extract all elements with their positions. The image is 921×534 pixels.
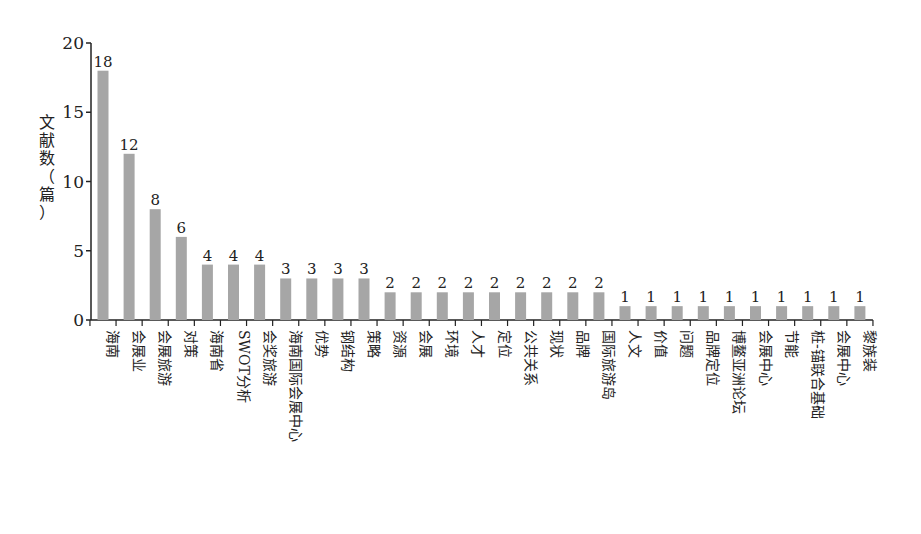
y-tick-label: 15 xyxy=(62,102,84,122)
bar-chart: 05101520 海南会展业会展旅游对策海南省SWOT分析会奖旅游海南国际会展中… xyxy=(0,0,921,534)
y-axis: 05101520 xyxy=(62,33,91,330)
x-category-label: 资源 xyxy=(392,330,408,358)
bar xyxy=(750,306,761,320)
x-category-label: 海南国际会展中心 xyxy=(288,330,304,442)
x-category-label: 海南 xyxy=(105,330,121,358)
bar xyxy=(776,306,787,320)
bar xyxy=(254,265,265,320)
bar-value-label: 1 xyxy=(777,288,787,306)
svg-text:数: 数 xyxy=(39,149,55,168)
bar xyxy=(541,292,552,320)
bar-value-label: 2 xyxy=(438,274,448,292)
x-category-label: 海南省 xyxy=(209,330,225,372)
bar-value-label: 1 xyxy=(725,288,735,306)
bar xyxy=(620,306,631,320)
y-tick-label: 20 xyxy=(62,33,84,53)
bar xyxy=(567,292,578,320)
x-category-label: 会展业 xyxy=(131,330,147,372)
x-category-label: 品牌 xyxy=(575,330,591,358)
bar-value-label: 2 xyxy=(464,274,474,292)
bar xyxy=(672,306,683,320)
bar-value-label: 12 xyxy=(120,136,139,154)
x-category-label: 品牌定位 xyxy=(705,330,721,386)
bar-value-label: 8 xyxy=(150,191,160,209)
x-category-label: 问题 xyxy=(679,330,695,358)
bar-value-label: 2 xyxy=(594,274,604,292)
bar-value-label: 1 xyxy=(751,288,761,306)
bar xyxy=(828,306,839,320)
svg-text:献: 献 xyxy=(39,131,55,150)
y-axis-label: 文献数（篇） xyxy=(39,113,55,222)
bar xyxy=(98,71,109,320)
x-category-label: 桩-锚联合基础 xyxy=(810,330,826,419)
bar-value-label: 1 xyxy=(646,288,656,306)
x-category-label: 会奖旅游 xyxy=(262,330,278,386)
bar xyxy=(724,306,735,320)
bar xyxy=(463,292,474,320)
x-category-label: 优势 xyxy=(314,330,330,358)
bars: 18128644433332222222221111111111 xyxy=(93,53,865,320)
x-category-label: 博鳌亚洲论坛 xyxy=(731,330,747,414)
bar-value-label: 2 xyxy=(542,274,552,292)
y-tick-label: 0 xyxy=(73,310,84,330)
svg-text:文: 文 xyxy=(39,113,55,132)
bar xyxy=(437,292,448,320)
x-category-label: 价值 xyxy=(653,330,669,358)
x-category-label: 环境 xyxy=(444,330,460,358)
svg-text:）: ） xyxy=(39,203,55,222)
bar xyxy=(150,209,161,320)
bar-value-label: 1 xyxy=(803,288,813,306)
bar xyxy=(411,292,422,320)
x-category-label: 会展中心 xyxy=(758,330,774,386)
bar-value-label: 2 xyxy=(490,274,500,292)
x-category-label: 公共关系 xyxy=(523,330,539,386)
x-category-label: 人文 xyxy=(627,330,643,358)
bar-value-label: 1 xyxy=(699,288,709,306)
x-category-label: 国际旅游岛 xyxy=(601,330,617,400)
bar xyxy=(515,292,526,320)
bar-value-label: 3 xyxy=(307,260,317,278)
x-category-label: 节能 xyxy=(784,330,800,358)
x-category-label: 现状 xyxy=(549,330,565,358)
bar xyxy=(646,306,657,320)
x-category-label: 策略 xyxy=(366,330,382,358)
bar xyxy=(228,265,239,320)
bar-value-label: 1 xyxy=(829,288,839,306)
y-tick-label: 10 xyxy=(62,172,84,192)
x-axis: 海南会展业会展旅游对策海南省SWOT分析会奖旅游海南国际会展中心优势钢结构策略资… xyxy=(90,320,878,442)
bar xyxy=(280,278,291,320)
bar-value-label: 6 xyxy=(177,219,187,237)
y-tick-label: 5 xyxy=(73,241,84,261)
bar xyxy=(854,306,865,320)
x-category-label: 人才 xyxy=(470,330,486,358)
bar-value-label: 2 xyxy=(385,274,395,292)
bar xyxy=(306,278,317,320)
bar xyxy=(489,292,500,320)
bar xyxy=(698,306,709,320)
bar xyxy=(593,292,604,320)
bar xyxy=(124,154,135,320)
bar-value-label: 1 xyxy=(672,288,682,306)
x-category-label: 对策 xyxy=(183,330,199,358)
svg-text:篇: 篇 xyxy=(39,185,55,204)
bar-value-label: 18 xyxy=(93,53,112,71)
bar-value-label: 2 xyxy=(516,274,526,292)
bar-value-label: 1 xyxy=(855,288,865,306)
bar-value-label: 2 xyxy=(568,274,578,292)
x-category-label: 钢结构 xyxy=(340,330,356,372)
x-category-label: 黎族装 xyxy=(862,330,878,372)
bar-value-label: 4 xyxy=(203,247,213,265)
bar xyxy=(385,292,396,320)
svg-text:（: （ xyxy=(39,167,55,186)
bar xyxy=(802,306,813,320)
bar-value-label: 4 xyxy=(255,247,265,265)
x-category-label: SWOT分析 xyxy=(236,330,252,403)
bar xyxy=(176,237,187,320)
bar xyxy=(202,265,213,320)
bar xyxy=(332,278,343,320)
x-category-label: 会展旅游 xyxy=(157,330,173,386)
bar-value-label: 3 xyxy=(359,260,369,278)
bar-value-label: 3 xyxy=(281,260,291,278)
x-category-label: 会展中心 xyxy=(836,330,852,386)
bar-value-label: 1 xyxy=(620,288,630,306)
